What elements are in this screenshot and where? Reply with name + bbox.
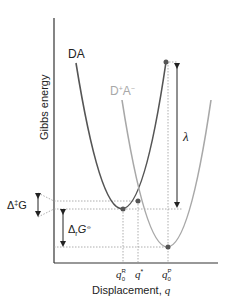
x-axis-label: Displacement, q [92,284,171,296]
reaction-energy-label: ΔrG⦵ [68,223,92,237]
tick-q0-reactant: qR0 [116,268,127,282]
marcus-diagram: DA D+A− Gibbs energy Displacement, q λ Δ… [0,0,228,306]
tick-q-star: q* [135,268,144,280]
guide-activation-bottom [38,209,54,217]
curve-label-da: DA [68,47,85,61]
activation-energy-label: Δ‡G [7,199,27,211]
point-product-min [166,245,171,250]
curve-reactant-da [76,62,166,209]
guide-activation-top [38,193,54,201]
point-reactant-min [121,207,126,212]
lambda-label: λ [182,129,189,144]
point-vertical-excitation [164,60,169,65]
curve-product-dplus-aminus [122,100,211,247]
tick-q0-product: qP0 [162,268,172,282]
y-axis-label: Gibbs energy [38,74,50,140]
curve-label-dplus-aminus: D+A− [110,84,135,98]
point-crossing [136,199,141,204]
